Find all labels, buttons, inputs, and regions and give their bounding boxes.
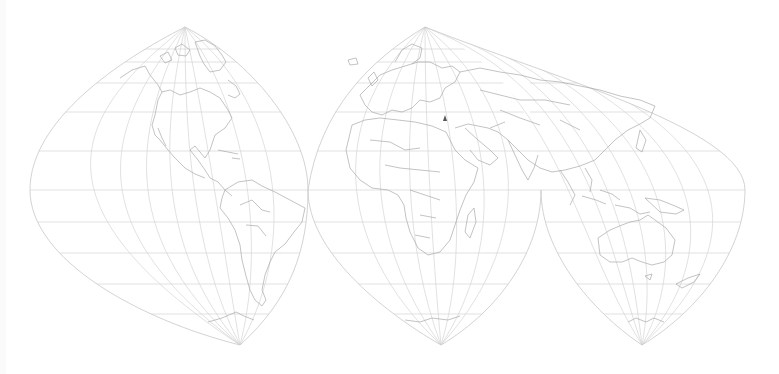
africa-coast: [346, 118, 478, 255]
lobe-outlines: [30, 27, 745, 345]
south-america-border-1: [240, 200, 270, 212]
british-isles: [368, 72, 378, 86]
india-coast: [508, 140, 538, 180]
africa-meridians: [356, 27, 509, 345]
location-marker[interactable]: [443, 115, 447, 121]
south-america-border-2: [246, 225, 266, 236]
madagascar: [465, 208, 476, 238]
new-zealand: [676, 274, 700, 288]
asia-graticule: [425, 27, 779, 345]
africa-lobe-outline: [308, 27, 541, 345]
americas-graticule: [0, 27, 320, 345]
north-america-coast: [120, 66, 232, 196]
new-guinea: [645, 198, 684, 214]
caribbean-islands: [218, 150, 240, 159]
southeast-asia-coast: [560, 168, 592, 205]
location-marker-icon[interactable]: [443, 115, 447, 121]
asia-coast: [455, 68, 655, 172]
north-america-west-coast: [152, 92, 205, 178]
south-america-coast: [220, 180, 305, 306]
japan: [636, 130, 646, 152]
asia-meridians: [425, 27, 713, 345]
world-map: [0, 0, 779, 374]
africa-parallels: [300, 49, 550, 314]
americas-lobe-outline: [30, 27, 308, 345]
map-canvas: [0, 0, 779, 374]
iceland: [348, 58, 358, 65]
tasmania: [645, 274, 652, 280]
baja-california: [158, 128, 166, 146]
asia-lobe-outline: [425, 27, 745, 345]
africa-graticule: [300, 27, 550, 345]
